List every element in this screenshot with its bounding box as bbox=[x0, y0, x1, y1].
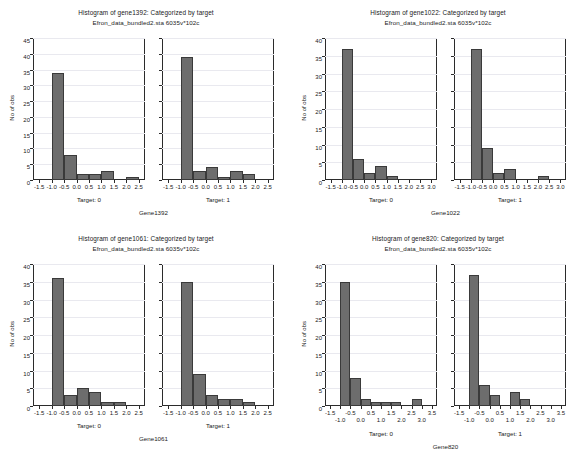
x-tick-mark bbox=[561, 406, 562, 409]
y-tick-label: 0 bbox=[27, 180, 33, 186]
y-tick-label: 10 bbox=[23, 371, 33, 377]
x-tick-label: 2.5 bbox=[536, 410, 544, 416]
histogram-bar bbox=[243, 402, 255, 406]
histogram-bar bbox=[64, 395, 76, 406]
histogram-bar bbox=[381, 402, 391, 406]
x-tick-mark bbox=[422, 406, 423, 409]
bar-series bbox=[325, 264, 437, 406]
panel-category-label: Target: 1 bbox=[206, 196, 230, 203]
x-tick-mark bbox=[168, 180, 169, 183]
axes-target-1: -1.5-1.0-0.50.00.51.01.52.02.53.0 bbox=[454, 38, 566, 180]
y-tick-label: 15 bbox=[23, 133, 33, 139]
x-tick-label: 1.5 bbox=[394, 184, 402, 190]
bar-series bbox=[162, 38, 274, 180]
x-tick-label: -0.5 bbox=[477, 184, 487, 190]
histogram-bar bbox=[243, 174, 255, 180]
x-tick-mark bbox=[541, 406, 542, 409]
bar-series bbox=[33, 38, 145, 180]
x-tick-label: 2.5 bbox=[135, 184, 143, 190]
y-tick-label: 25 bbox=[315, 317, 325, 323]
x-tick-mark bbox=[460, 180, 461, 183]
histogram-bar bbox=[387, 176, 398, 180]
x-tick-mark bbox=[268, 406, 269, 409]
x-tick-mark bbox=[218, 180, 219, 183]
x-tick-mark bbox=[181, 406, 182, 409]
x-tick-mark bbox=[551, 406, 552, 409]
histogram-bar bbox=[114, 402, 126, 406]
axes-target-1: -1.5-1.0-0.50.00.51.01.52.02.5 bbox=[162, 264, 274, 406]
panel-category-label: Target: 1 bbox=[498, 196, 522, 203]
x-tick-label: 1.0 bbox=[382, 184, 390, 190]
bar-series bbox=[162, 264, 274, 406]
y-tick-label: 10 bbox=[23, 148, 33, 154]
y-tick-label: 0 bbox=[319, 180, 325, 186]
histogram-bar bbox=[364, 173, 375, 180]
x-tick-mark bbox=[340, 406, 341, 409]
x-tick-label: -1.5 bbox=[325, 410, 335, 416]
x-tick-mark bbox=[101, 180, 102, 183]
x-tick-label: 1.0 bbox=[377, 417, 385, 423]
x-tick-mark bbox=[89, 406, 90, 409]
histogram-bar bbox=[206, 167, 218, 180]
x-tick-label: 3.0 bbox=[418, 417, 426, 423]
x-tick-mark bbox=[114, 180, 115, 183]
x-tick-mark bbox=[342, 180, 343, 183]
x-tick-mark bbox=[459, 406, 460, 409]
y-axis-label: No of obs bbox=[301, 321, 307, 347]
axes-target-0: 0510152025303540-1.5-1.0-0.50.00.51.01.5… bbox=[325, 264, 437, 406]
x-tick-mark bbox=[401, 406, 402, 409]
x-tick-mark bbox=[89, 180, 90, 183]
x-tick-label: -0.5 bbox=[345, 410, 355, 416]
histogram-bar bbox=[340, 282, 350, 406]
y-tick-label: 45 bbox=[23, 38, 33, 44]
axes-target-0: 051015202530354045-1.5-1.0-0.50.00.51.01… bbox=[33, 38, 145, 180]
x-tick-mark bbox=[510, 406, 511, 409]
x-tick-mark bbox=[375, 180, 376, 183]
histogram-bar bbox=[181, 282, 193, 406]
histogram-bar bbox=[230, 399, 242, 406]
x-tick-mark bbox=[527, 180, 528, 183]
histogram-bar bbox=[101, 171, 113, 180]
x-tick-label: -0.5 bbox=[188, 410, 198, 416]
x-tick-label: -1.0 bbox=[46, 410, 56, 416]
bar-series bbox=[454, 38, 566, 180]
x-tick-mark bbox=[409, 180, 410, 183]
x-tick-mark bbox=[516, 180, 517, 183]
y-tick-label: 15 bbox=[23, 353, 33, 359]
y-tick-label: 25 bbox=[23, 101, 33, 107]
axes-target-0: 0510152025303540-1.5-1.0-0.50.00.51.01.5… bbox=[33, 264, 145, 406]
x-tick-mark bbox=[193, 180, 194, 183]
x-tick-label: 2.5 bbox=[264, 184, 272, 190]
y-tick-label: 0 bbox=[27, 406, 33, 412]
x-tick-label: 2.0 bbox=[122, 184, 130, 190]
y-tick-label: 30 bbox=[23, 85, 33, 91]
histogram-bar bbox=[469, 275, 479, 406]
y-tick-label: 40 bbox=[23, 264, 33, 270]
x-tick-mark bbox=[490, 406, 491, 409]
chart-panel-gene1392: Histogram of gene1392: Categorized by ta… bbox=[0, 0, 292, 226]
x-tick-mark bbox=[181, 180, 182, 183]
x-tick-label: 2.5 bbox=[407, 410, 415, 416]
histogram-bar bbox=[520, 399, 530, 406]
x-tick-label: 2.0 bbox=[251, 410, 259, 416]
histogram-bar bbox=[371, 402, 381, 406]
x-tick-mark bbox=[255, 406, 256, 409]
x-tick-mark bbox=[398, 180, 399, 183]
x-tick-label: 0.5 bbox=[85, 184, 93, 190]
x-tick-label: 3.0 bbox=[556, 184, 564, 190]
y-tick-label: 35 bbox=[23, 70, 33, 76]
axes-target-1: -1.5-1.0-0.50.00.51.01.52.02.53.03.5 bbox=[454, 264, 566, 406]
y-tick-label: 10 bbox=[315, 145, 325, 151]
x-tick-label: -0.5 bbox=[59, 410, 69, 416]
x-tick-label: 0.0 bbox=[72, 184, 80, 190]
x-tick-label: 0.0 bbox=[201, 184, 209, 190]
y-tick-label: 25 bbox=[315, 91, 325, 97]
histogram-bar bbox=[52, 278, 64, 406]
histogram-bar bbox=[89, 174, 101, 180]
histogram-bar bbox=[350, 378, 360, 406]
histogram-bar bbox=[510, 392, 520, 406]
panel-category-label: Target: 0 bbox=[77, 196, 101, 203]
x-tick-label: 1.0 bbox=[97, 410, 105, 416]
y-tick-label: 40 bbox=[23, 54, 33, 60]
x-tick-label: 1.0 bbox=[226, 410, 234, 416]
